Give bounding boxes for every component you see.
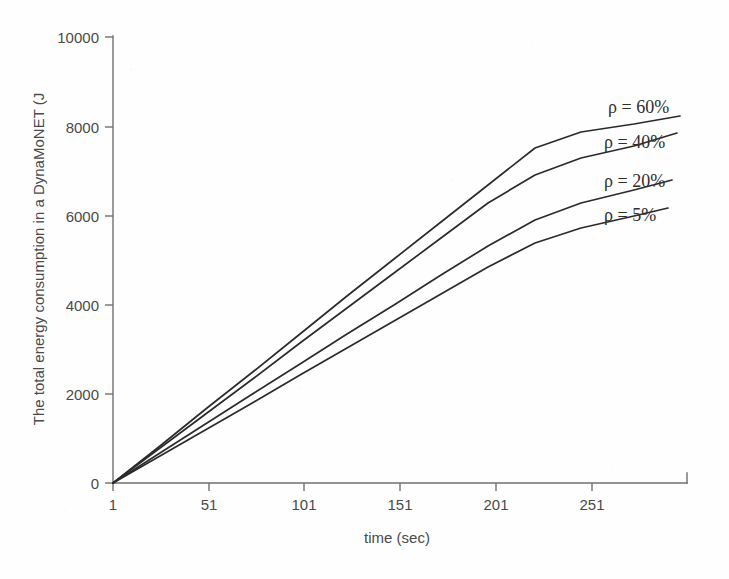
- y-tick-label-8000: 8000: [66, 119, 99, 136]
- y-tick-label-2000: 2000: [66, 386, 99, 403]
- y-tick-label-0: 0: [91, 475, 99, 492]
- x-tick-label-51: 51: [201, 496, 218, 513]
- x-tick-group: 1 51 101 151 201 251: [109, 483, 605, 513]
- y-tick-label-4000: 4000: [66, 297, 99, 314]
- x-tick-label-101: 101: [291, 496, 316, 513]
- data-line-rho-20: [113, 180, 672, 483]
- series-label-group: ρ = 60% ρ = 40% ρ = 20% ρ = 5%: [604, 97, 669, 225]
- data-line-rho-5: [113, 208, 668, 483]
- energy-consumption-line-chart: 0 2000 4000 6000 8000 10000 1 51 101 151…: [0, 0, 729, 579]
- x-tick-label-1: 1: [109, 496, 117, 513]
- x-tick-label-201: 201: [483, 496, 508, 513]
- axis-group: [113, 36, 687, 483]
- y-tick-label-10000: 10000: [57, 29, 99, 46]
- y-axis-title: The total energy consumption in a DynaMo…: [30, 93, 47, 425]
- series-label-rho-20: ρ = 20%: [604, 171, 665, 191]
- chart-page: 0 2000 4000 6000 8000 10000 1 51 101 151…: [0, 0, 729, 579]
- series-label-rho-5: ρ = 5%: [604, 205, 656, 225]
- series-label-rho-60: ρ = 60%: [608, 97, 669, 117]
- data-series-group: [113, 116, 680, 483]
- x-axis-title: time (sec): [364, 529, 430, 546]
- x-tick-label-151: 151: [387, 496, 412, 513]
- data-line-rho-40: [113, 133, 677, 483]
- y-tick-label-6000: 6000: [66, 208, 99, 225]
- y-tick-group: 0 2000 4000 6000 8000 10000: [57, 29, 113, 492]
- series-label-rho-40: ρ = 40%: [604, 132, 665, 152]
- x-tick-label-251: 251: [579, 496, 604, 513]
